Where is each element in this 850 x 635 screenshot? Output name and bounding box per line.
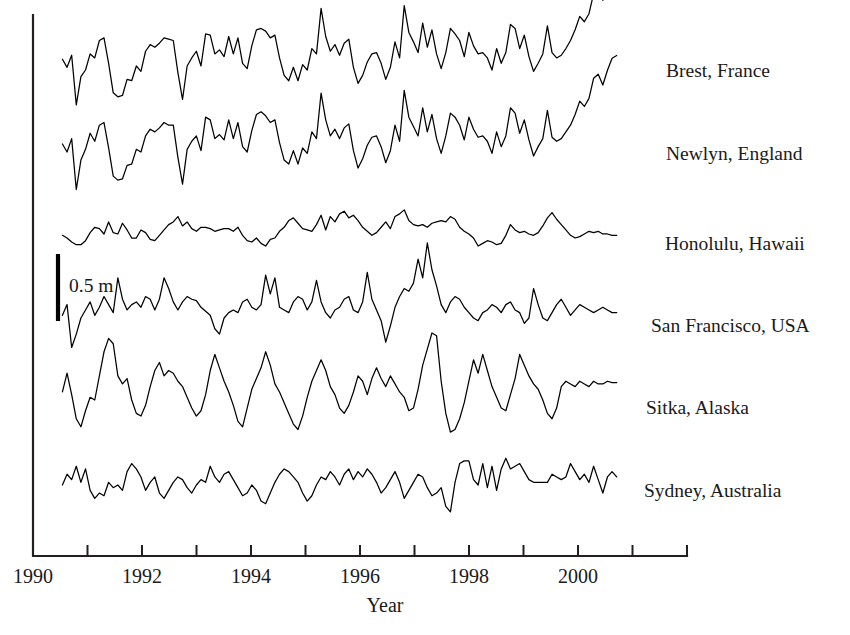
series-label-honolulu-hawaii: Honolulu, Hawaii: [665, 233, 805, 254]
x-tick-label-1996: 1996: [340, 565, 380, 587]
series-label-newlyn-england: Newlyn, England: [666, 143, 803, 164]
x-tick-label-1992: 1992: [122, 565, 162, 587]
x-tick-label-2000: 2000: [558, 565, 598, 587]
x-tick-label-1998: 1998: [449, 565, 489, 587]
scale-bar-label: 0.5 m: [69, 275, 113, 296]
series-label-sydney-australia: Sydney, Australia: [644, 480, 782, 501]
x-tick-label-1994: 1994: [231, 565, 271, 587]
x-axis-title: Year: [367, 594, 404, 616]
series-label-san-francisco-usa: San Francisco, USA: [651, 315, 810, 336]
sea-level-chart: 0.5 m Brest, FranceNewlyn, EnglandHonolu…: [0, 0, 850, 635]
series-label-sitka-alaska: Sitka, Alaska: [646, 397, 749, 418]
series-label-brest-france: Brest, France: [666, 60, 770, 81]
x-tick-label-1990: 1990: [13, 565, 53, 587]
